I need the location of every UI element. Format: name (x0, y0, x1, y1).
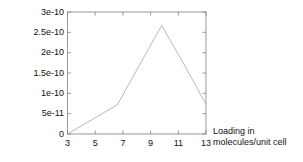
plot-area (0, 0, 303, 162)
plot-frame (68, 12, 207, 134)
diffusion-loading-chart: D / (m^2/s) 3e-10 2.5e-10 2e-10 1.5e-10 … (0, 0, 303, 162)
data-series-line (68, 25, 207, 134)
axis-tick-marks (68, 12, 207, 134)
